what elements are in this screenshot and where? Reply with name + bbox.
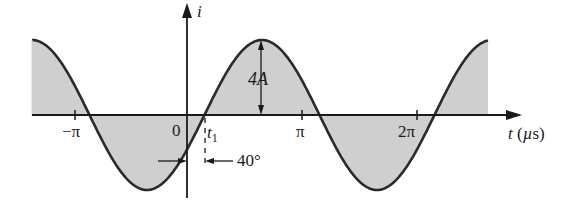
x-axis-label: t (µs): [508, 125, 545, 142]
sine-waveform-diagram: i −π 0 π 2π t (µs) 4A t1 40°: [0, 0, 585, 202]
tick-label-zero: 0: [172, 122, 181, 139]
y-axis-label: i: [197, 3, 202, 20]
amplitude-label: 4A: [248, 70, 268, 88]
x-axis-arrow-icon: [506, 110, 522, 120]
tick-label-neg-pi: −π: [62, 123, 80, 140]
waveform-graphic: [0, 0, 585, 202]
tick-label-pi: π: [296, 123, 305, 140]
tick-label-2pi: 2π: [398, 123, 415, 140]
y-axis-arrow-icon: [182, 3, 192, 18]
phase-arrow-left-icon: [205, 158, 214, 164]
t1-label: t1: [207, 124, 218, 144]
phase-angle-label: 40°: [237, 152, 261, 169]
